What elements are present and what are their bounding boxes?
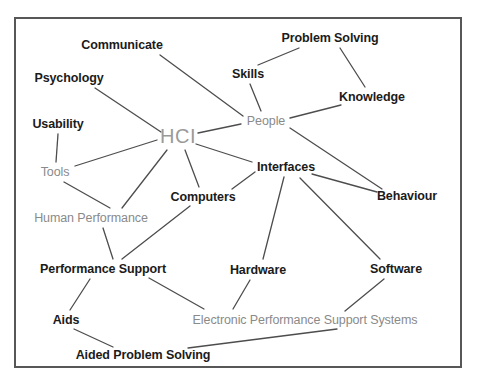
node-knowledge: Knowledge [339, 91, 405, 104]
node-aided_problem_solving: Aided Problem Solving [76, 349, 211, 362]
node-usability: Usability [32, 118, 83, 131]
concept-map-canvas: CommunicateProblem SolvingPsychologySkil… [0, 0, 480, 389]
node-hci: HCI [160, 126, 196, 146]
node-skills: Skills [232, 68, 264, 81]
node-software: Software [370, 263, 422, 276]
node-hardware: Hardware [230, 264, 286, 277]
node-behaviour: Behaviour [377, 190, 437, 203]
node-computers: Computers [170, 191, 235, 204]
node-performance_support: Performance Support [40, 263, 166, 276]
node-psychology: Psychology [34, 72, 103, 85]
node-epss: Electronic Performance Support Systems [193, 314, 418, 327]
node-problem_solving: Problem Solving [281, 32, 378, 45]
node-tools: Tools [41, 166, 70, 179]
node-aids: Aids [53, 314, 80, 327]
node-communicate: Communicate [81, 39, 163, 52]
node-human_performance: Human Performance [34, 212, 148, 225]
node-people: People [247, 115, 285, 128]
node-interfaces: Interfaces [257, 161, 315, 174]
